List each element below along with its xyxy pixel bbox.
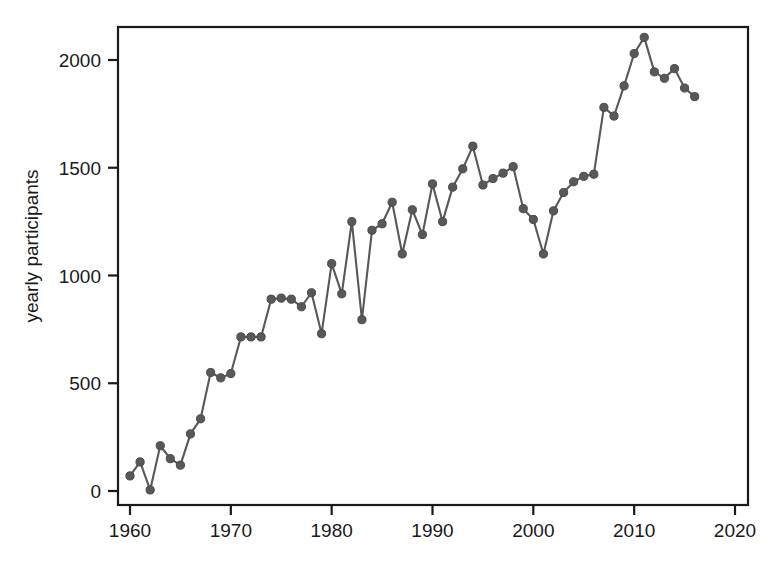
data-point <box>459 165 467 173</box>
data-point <box>438 218 446 226</box>
data-point <box>237 333 245 341</box>
data-point <box>328 260 336 268</box>
y-tick-label: 500 <box>69 373 101 394</box>
data-point <box>398 250 406 258</box>
data-point <box>469 142 477 150</box>
data-point <box>418 230 426 238</box>
data-point <box>499 169 507 177</box>
data-point <box>640 33 648 41</box>
data-point <box>287 295 295 303</box>
data-point <box>176 461 184 469</box>
data-point <box>166 455 174 463</box>
data-point <box>368 226 376 234</box>
data-point <box>186 430 194 438</box>
x-tick-label: 1980 <box>311 520 353 541</box>
data-point <box>590 170 598 178</box>
data-point <box>277 294 285 302</box>
y-axis-label-text: yearly participants <box>21 169 42 322</box>
data-point <box>428 180 436 188</box>
y-axis-label: yearly participants <box>21 169 42 322</box>
data-point <box>378 220 386 228</box>
data-point <box>559 188 567 196</box>
data-point <box>660 74 668 82</box>
y-tick-label: 1000 <box>59 266 101 287</box>
data-point <box>408 206 416 214</box>
y-tick-label: 1500 <box>59 158 101 179</box>
data-point <box>630 49 638 57</box>
data-point <box>650 68 658 76</box>
data-point <box>549 207 557 215</box>
x-tick-label: 2010 <box>613 520 655 541</box>
data-point <box>247 333 255 341</box>
data-point <box>570 178 578 186</box>
x-tick-label: 1970 <box>210 520 252 541</box>
data-point <box>620 82 628 90</box>
data-point <box>317 330 325 338</box>
data-point <box>479 181 487 189</box>
data-point <box>670 65 678 73</box>
data-point <box>136 458 144 466</box>
line-chart: 1960197019801990200020102020 05001000150… <box>0 0 781 563</box>
data-point <box>610 112 618 120</box>
data-point <box>146 486 154 494</box>
data-point <box>519 205 527 213</box>
data-point <box>680 84 688 92</box>
x-tick-label: 1960 <box>109 520 151 541</box>
data-point <box>529 215 537 223</box>
x-tick-label: 2000 <box>512 520 554 541</box>
data-point <box>126 472 134 480</box>
x-tick-label: 1990 <box>411 520 453 541</box>
data-point <box>489 174 497 182</box>
data-point <box>358 316 366 324</box>
data-point <box>449 183 457 191</box>
data-point <box>509 163 517 171</box>
data-point <box>539 250 547 258</box>
data-point <box>267 295 275 303</box>
data-point <box>297 303 305 311</box>
data-point <box>196 415 204 423</box>
data-point <box>227 369 235 377</box>
data-point <box>207 368 215 376</box>
y-tick-label: 2000 <box>59 50 101 71</box>
data-point <box>691 93 699 101</box>
data-point <box>338 290 346 298</box>
data-point <box>388 198 396 206</box>
chart-figure: 1960197019801990200020102020 05001000150… <box>0 0 781 563</box>
data-point <box>217 374 225 382</box>
data-point <box>600 103 608 111</box>
data-point <box>257 333 265 341</box>
data-point <box>348 218 356 226</box>
data-point <box>580 172 588 180</box>
y-tick-label: 0 <box>90 481 101 502</box>
data-point <box>156 442 164 450</box>
data-point <box>307 289 315 297</box>
x-tick-label: 2020 <box>714 520 756 541</box>
